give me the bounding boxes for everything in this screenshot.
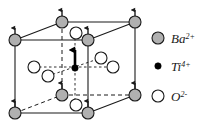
legend-marker-oxygen-icon bbox=[152, 90, 164, 102]
oxygen-bottom-face-center bbox=[70, 99, 82, 111]
figure-container: Ba2+ Ti4+ O2- bbox=[0, 0, 203, 132]
legend-charge-oxygen: 2- bbox=[180, 90, 187, 99]
legend-symbol-titanium: Ti bbox=[171, 59, 182, 74]
barium-front-top-right bbox=[82, 34, 94, 46]
legend-charge-titanium: 4+ bbox=[181, 60, 190, 69]
oxygen-back-face-center bbox=[95, 52, 107, 64]
titanium-body-center bbox=[72, 65, 78, 71]
crystal-structure-figure: Ba2+ Ti4+ O2- bbox=[0, 0, 203, 132]
barium-back-bottom-right bbox=[129, 89, 141, 101]
barium-back-top-right bbox=[129, 16, 141, 28]
legend-marker-titanium-icon bbox=[155, 63, 161, 69]
barium-back-bottom-left bbox=[56, 89, 68, 101]
oxygen-left-face-center bbox=[28, 61, 40, 73]
legend-marker-barium-icon bbox=[152, 32, 164, 44]
barium-back-top-left bbox=[56, 16, 68, 28]
legend-symbol-barium: Ba bbox=[171, 31, 186, 46]
barium-front-top-left bbox=[9, 34, 21, 46]
barium-front-bottom-left bbox=[9, 107, 21, 119]
legend-charge-barium: 2+ bbox=[185, 32, 194, 41]
oxygen-front-face-center bbox=[42, 70, 54, 82]
barium-front-bottom-right bbox=[82, 107, 94, 119]
oxygen-top-face-center bbox=[70, 27, 82, 39]
oxygen-right-face-center bbox=[107, 61, 119, 73]
